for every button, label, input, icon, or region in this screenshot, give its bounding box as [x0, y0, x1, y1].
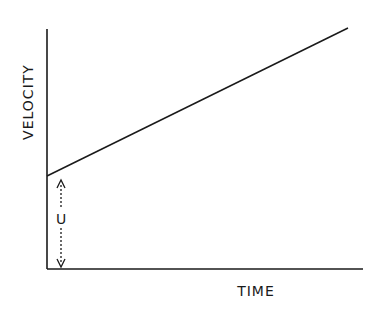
- y-axis-label: VELOCITY: [20, 64, 36, 140]
- initial-velocity-label: U: [56, 211, 66, 227]
- x-axis-label: TIME: [236, 283, 275, 299]
- velocity-time-diagram: U VELOCITY TIME: [0, 0, 384, 313]
- velocity-line: [47, 28, 348, 176]
